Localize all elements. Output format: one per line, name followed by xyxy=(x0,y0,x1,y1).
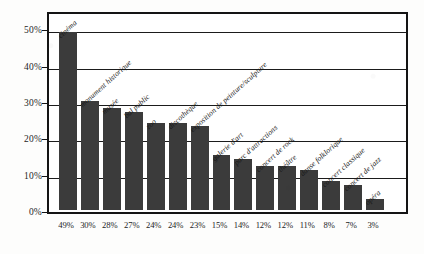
bar xyxy=(59,32,77,210)
value-label: 3% xyxy=(360,220,386,230)
bar xyxy=(103,108,121,210)
y-tick-label: 50% xyxy=(2,25,42,35)
bar xyxy=(169,123,187,210)
y-tick-label: 20% xyxy=(2,134,42,144)
chart-figure: 0%10%20%30%40%50% cinémamonument histori… xyxy=(0,0,424,254)
y-tick-label: 0% xyxy=(2,207,42,217)
bar xyxy=(125,112,143,210)
bar xyxy=(191,126,209,210)
y-tick-label: 10% xyxy=(2,171,42,181)
bar xyxy=(147,123,165,210)
y-tick-label: 40% xyxy=(2,62,42,72)
y-tick-label: 30% xyxy=(2,98,42,108)
bar xyxy=(81,101,99,210)
bar xyxy=(213,155,231,210)
